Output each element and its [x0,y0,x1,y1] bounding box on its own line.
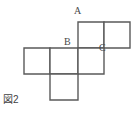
net-square-bottom [50,74,78,100]
vertex-label-c: C [99,43,106,53]
vertex-label-a: A [74,6,81,16]
vertex-label-b: B [64,37,71,47]
figure-canvas: A B C 図2 [0,0,137,115]
net-square-middle-center [50,48,78,74]
net-square-top-right [104,22,130,48]
figure-caption: 図2 [3,94,19,105]
net-square-middle-left [24,48,50,74]
cube-net-diagram [0,0,137,115]
